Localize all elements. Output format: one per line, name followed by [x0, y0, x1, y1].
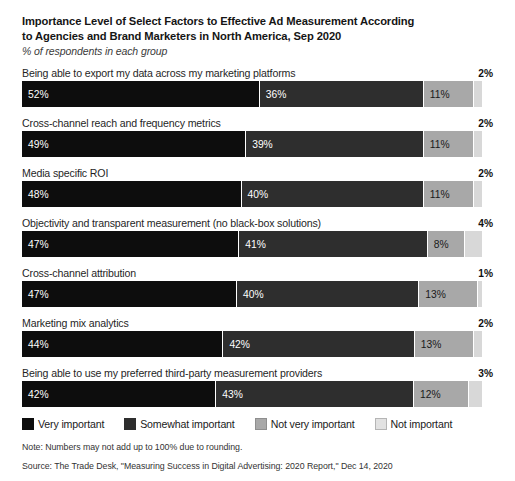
bar-segment-value: 41%: [239, 239, 266, 250]
bar-segment-value: 36%: [260, 89, 287, 100]
bar-segment: [477, 281, 482, 307]
bar-row: Objectivity and transparent measurement …: [22, 216, 482, 257]
chart-note: Note: Numbers may not add up to 100% due…: [22, 442, 482, 452]
stacked-bar: 47%40%13%: [22, 281, 482, 307]
legend-item-label: Very important: [38, 418, 104, 430]
bar-segment: 40%: [236, 281, 418, 307]
bar-segment: 13%: [418, 281, 477, 307]
chart-source: Source: The Trade Desk, "Measuring Succe…: [22, 461, 482, 471]
bar-segment: [473, 181, 482, 207]
bar-row-header: Marketing mix analytics2%: [22, 316, 482, 331]
bar-segment: 13%: [414, 331, 473, 357]
bar-row-outer-value: 2%: [478, 66, 493, 81]
legend-item-label: Not very important: [271, 418, 355, 430]
bar-row: Marketing mix analytics2%44%42%13%: [22, 316, 482, 357]
stacked-bar: 48%40%11%: [22, 181, 482, 207]
bar-segment: 52%: [22, 81, 259, 107]
bar-row: Being able to use my preferred third-par…: [22, 366, 482, 407]
legend-item-label: Not important: [391, 418, 453, 430]
legend-swatch-icon: [22, 418, 34, 430]
bar-segment: 12%: [413, 381, 468, 407]
bar-row-header: Cross-channel attribution1%: [22, 266, 482, 281]
bar-row-header: Objectivity and transparent measurement …: [22, 216, 482, 231]
chart-page: Importance Level of Select Factors to Ef…: [0, 0, 515, 481]
legend-item[interactable]: Not very important: [255, 418, 355, 430]
bar-segment-value: 42%: [22, 389, 49, 400]
legend-item-label: Somewhat important: [140, 418, 234, 430]
bar-segment: 11%: [423, 131, 473, 157]
bar-segment: 40%: [241, 181, 423, 207]
bar-row-outer-value: 3%: [478, 366, 493, 381]
bar-segment-value: 49%: [22, 139, 49, 150]
bar-segment: 44%: [22, 331, 222, 357]
bar-row: Being able to export my data across my m…: [22, 66, 482, 107]
stacked-bar: 47%41%8%: [22, 231, 482, 257]
legend-item[interactable]: Very important: [22, 418, 104, 430]
stacked-bar: 42%43%12%: [22, 381, 482, 407]
bar-segment: 11%: [423, 181, 473, 207]
bar-segment-value: 13%: [419, 289, 446, 300]
bar-row-outer-value: 1%: [478, 266, 493, 281]
bar-row: Cross-channel attribution1%47%40%13%: [22, 266, 482, 307]
bar-segment: 39%: [245, 131, 423, 157]
bar-segment-value: 48%: [22, 189, 49, 200]
bar-segment-value: 40%: [237, 289, 264, 300]
bar-segment: [464, 231, 482, 257]
bar-segment: 8%: [427, 231, 464, 257]
bar-segment-value: 43%: [216, 389, 243, 400]
bar-row-header: Being able to export my data across my m…: [22, 66, 482, 81]
bar-segment: 36%: [259, 81, 423, 107]
bar-row-label: Being able to export my data across my m…: [22, 66, 482, 81]
legend-swatch-icon: [255, 418, 267, 430]
bar-segment: 43%: [215, 381, 413, 407]
bar-segment-value: 11%: [424, 89, 450, 100]
bar-row-label: Cross-channel attribution: [22, 266, 482, 281]
bar-row-outer-value: 2%: [478, 116, 493, 131]
bar-segment: [468, 381, 482, 407]
page-title-line-2: to Agencies and Brand Marketers in North…: [22, 29, 482, 44]
bar-row-header: Being able to use my preferred third-par…: [22, 366, 482, 381]
bar-segment-value: 52%: [22, 89, 49, 100]
bar-segment: 11%: [423, 81, 473, 107]
bar-row: Media specific ROI2%48%40%11%: [22, 166, 482, 207]
bar-segment: 48%: [22, 181, 241, 207]
bar-segment-value: 11%: [424, 139, 450, 150]
bar-row-outer-value: 2%: [478, 166, 493, 181]
bar-row-label: Objectivity and transparent measurement …: [22, 216, 482, 231]
bar-row-label: Cross-channel reach and frequency metric…: [22, 116, 482, 131]
page-title-line-1: Importance Level of Select Factors to Ef…: [22, 14, 482, 29]
stacked-bar: 52%36%11%: [22, 81, 482, 107]
legend-item[interactable]: Not important: [375, 418, 453, 430]
stacked-bar: 49%39%11%: [22, 131, 482, 157]
bar-row: Cross-channel reach and frequency metric…: [22, 116, 482, 157]
bar-segment: 42%: [222, 331, 413, 357]
bar-segment: [473, 131, 482, 157]
bar-segment: [473, 81, 482, 107]
bar-segment: 49%: [22, 131, 245, 157]
page-title: Importance Level of Select Factors to Ef…: [22, 14, 482, 43]
bar-row-label: Being able to use my preferred third-par…: [22, 366, 482, 381]
legend-swatch-icon: [124, 418, 136, 430]
bar-row-header: Media specific ROI2%: [22, 166, 482, 181]
bar-row-header: Cross-channel reach and frequency metric…: [22, 116, 482, 131]
bar-segment-value: 40%: [242, 189, 269, 200]
bar-rows: Being able to export my data across my m…: [22, 66, 482, 407]
bar-segment: [473, 331, 482, 357]
legend-item[interactable]: Somewhat important: [124, 418, 234, 430]
bar-segment-value: 12%: [414, 389, 441, 400]
bar-segment: 47%: [22, 281, 236, 307]
bar-row-outer-value: 4%: [478, 216, 493, 231]
bar-segment: 42%: [22, 381, 215, 407]
bar-segment-value: 11%: [424, 189, 450, 200]
bar-segment-value: 39%: [246, 139, 273, 150]
bar-row-label: Marketing mix analytics: [22, 316, 482, 331]
bar-segment-value: 47%: [22, 289, 49, 300]
bar-segment-value: 13%: [415, 339, 442, 350]
chart-legend: Very importantSomewhat importantNot very…: [22, 418, 482, 430]
stacked-bar: 44%42%13%: [22, 331, 482, 357]
bar-segment: 47%: [22, 231, 238, 257]
bar-segment-value: 8%: [428, 239, 449, 250]
bar-segment-value: 44%: [22, 339, 49, 350]
bar-segment-value: 42%: [223, 339, 250, 350]
legend-swatch-icon: [375, 418, 387, 430]
